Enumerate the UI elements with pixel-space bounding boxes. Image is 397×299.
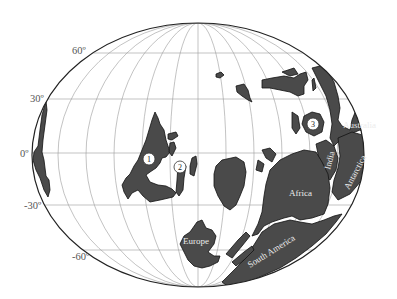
latitude-label-0: 0º — [20, 148, 29, 159]
land-islet-north — [216, 72, 224, 78]
svg-text:3: 3 — [311, 120, 315, 129]
land-south-america — [222, 214, 342, 288]
svg-text:1: 1 — [147, 155, 151, 164]
land-east-top — [338, 68, 362, 86]
latitude-label-m60: -60º — [72, 251, 89, 262]
land-northern-pin — [312, 78, 316, 91]
label-africa: Africa — [289, 188, 312, 198]
map-svg: Australia India Antarctica Africa South … — [0, 0, 397, 299]
land-island-a — [168, 132, 178, 140]
land-northern-sliver — [282, 68, 298, 76]
marker-1: 1 — [143, 153, 155, 165]
svg-text:2: 2 — [178, 163, 182, 172]
land-central-oval — [214, 157, 246, 210]
latitude-label-m30: -30º — [24, 200, 41, 211]
land-west-of-3 — [292, 112, 300, 134]
label-australia: Australia — [343, 120, 376, 130]
latitude-label-30: 30º — [30, 93, 44, 104]
land-northern-block — [262, 72, 308, 96]
land-island-b — [169, 142, 176, 156]
land-northern-strip — [236, 84, 252, 102]
marker-3: 3 — [307, 118, 319, 130]
land-island-d — [190, 156, 197, 176]
label-europe: Europe — [183, 236, 209, 246]
marker-2: 2 — [174, 161, 186, 173]
paleogeographic-map: Australia India Antarctica Africa South … — [0, 0, 397, 299]
latitude-label-60: 60º — [72, 45, 86, 56]
land-eastern-arc — [312, 66, 378, 146]
